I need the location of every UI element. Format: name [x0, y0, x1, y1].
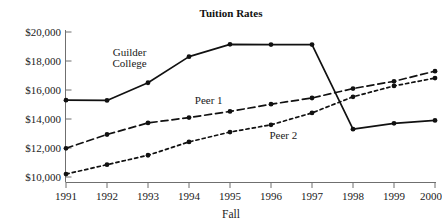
data-point — [146, 153, 151, 158]
data-point — [433, 69, 438, 74]
x-tick-label-1998: 1998 — [342, 190, 365, 202]
y-axis: $20,000 $18,000 $16,000 $14,000 $12,000 … — [25, 26, 71, 183]
x-tick-label-1996: 1996 — [260, 190, 283, 202]
series-label-peer-1: Peer 1 — [195, 94, 223, 106]
x-tick-label-1992: 1992 — [96, 190, 118, 202]
data-point — [433, 76, 438, 81]
data-point — [146, 80, 151, 85]
data-point — [392, 84, 397, 89]
data-point — [433, 118, 438, 123]
data-point — [146, 121, 151, 126]
data-point — [64, 172, 69, 177]
data-point — [105, 98, 110, 103]
y-tick-label-18000: $18,000 — [25, 55, 61, 67]
data-point — [105, 162, 110, 167]
y-tick-label-16000: $16,000 — [25, 84, 61, 96]
x-axis-title: Fall — [222, 208, 240, 220]
data-point — [351, 127, 356, 132]
data-point — [392, 121, 397, 126]
x-tick-label-1999: 1999 — [383, 190, 406, 202]
x-tick-label-2000: 2000 — [420, 190, 442, 202]
series-line — [66, 71, 435, 148]
y-tick-label-20000: $20,000 — [25, 26, 61, 38]
tuition-rates-chart: Tuition Rates $20,000 $18,000 $16,000 $1… — [0, 0, 442, 224]
chart-canvas: Tuition Rates $20,000 $18,000 $16,000 $1… — [0, 0, 442, 224]
x-tick-label-1997: 1997 — [301, 190, 324, 202]
data-point — [269, 102, 274, 107]
x-ticks — [66, 183, 435, 189]
chart-title-group: Tuition Rates — [200, 7, 264, 19]
series-annotations: GuilderCollegePeer 1Peer 2 — [112, 46, 297, 142]
x-tick-label-1995: 1995 — [219, 190, 242, 202]
data-point — [310, 111, 315, 116]
y-tick-label-12000: $12,000 — [25, 142, 61, 154]
data-point — [187, 54, 192, 59]
data-point — [105, 132, 110, 137]
series-label-peer-2: Peer 2 — [269, 129, 297, 141]
series-label-college: College — [112, 57, 146, 69]
series-label-guilder: Guilder — [113, 46, 147, 58]
y-tick-labels: $20,000 $18,000 $16,000 $14,000 $12,000 … — [25, 26, 61, 183]
data-point — [310, 96, 315, 101]
data-point — [310, 42, 315, 47]
data-point — [269, 122, 274, 127]
series-peer-1 — [64, 69, 438, 151]
y-ticks — [66, 32, 72, 177]
series-peer-2 — [64, 76, 438, 177]
data-point — [187, 115, 192, 120]
chart-title: Tuition Rates — [200, 7, 264, 19]
data-point — [392, 79, 397, 84]
data-point — [351, 86, 356, 91]
data-point — [351, 94, 356, 99]
data-point — [228, 42, 233, 47]
data-point — [64, 146, 69, 151]
y-tick-label-10000: $10,000 — [25, 171, 61, 183]
data-point — [269, 42, 274, 47]
x-tick-label-1994: 1994 — [178, 190, 201, 202]
y-tick-label-14000: $14,000 — [25, 113, 61, 125]
x-axis: 1991 1992 1993 1994 1995 1996 1997 1998 … — [55, 183, 442, 221]
x-tick-label-1991: 1991 — [55, 190, 77, 202]
data-point — [187, 140, 192, 145]
x-tick-label-1993: 1993 — [137, 190, 160, 202]
data-point — [228, 109, 233, 114]
data-point — [64, 98, 69, 103]
data-point — [228, 130, 233, 135]
x-tick-labels: 1991 1992 1993 1994 1995 1996 1997 1998 … — [55, 190, 442, 202]
